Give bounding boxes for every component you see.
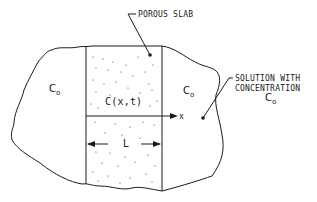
porous-slab-leader-dot <box>148 53 152 57</box>
right-concentration-symbol: Co <box>183 85 194 96</box>
slab-concentration-label: C(x,t) <box>105 96 142 107</box>
thickness-label: L <box>123 138 129 149</box>
right-c: C <box>183 85 190 96</box>
thickness-arrowhead-right <box>153 141 161 147</box>
x-axis-arrowhead <box>170 113 178 119</box>
solution-leader-dot <box>201 116 205 120</box>
solution-c-sub: o <box>272 98 276 106</box>
left-concentration-symbol: Co <box>49 83 60 94</box>
porous-texture <box>90 56 157 183</box>
solution-boundary <box>11 46 223 191</box>
porous-slab-label: POROUS SLAB <box>138 10 193 19</box>
solution-leader <box>203 78 233 118</box>
right-c-sub: o <box>190 91 194 99</box>
porous-slab-leader <box>128 14 150 55</box>
solution-concentration-symbol: Co <box>265 92 276 103</box>
solution-label-line1: SOLUTION WITH <box>235 74 300 83</box>
x-axis-label: x <box>179 112 184 121</box>
left-c: C <box>49 83 56 94</box>
solution-c: C <box>265 92 272 103</box>
thickness-arrowhead-left <box>87 141 95 147</box>
left-c-sub: o <box>56 89 60 97</box>
